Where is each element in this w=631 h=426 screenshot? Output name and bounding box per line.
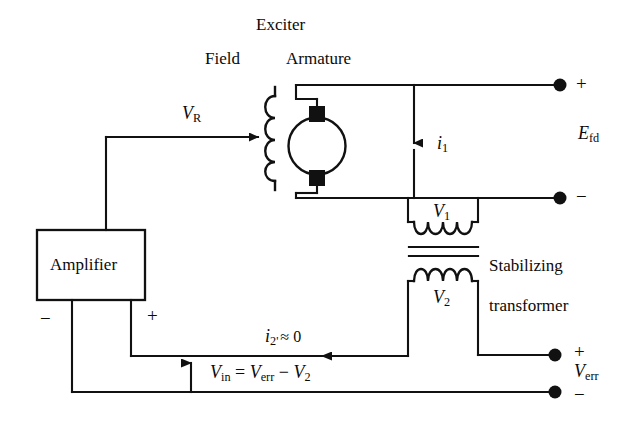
e-fd-subscript: fd	[589, 131, 599, 145]
v-r-label: VR	[182, 104, 201, 125]
v-in-equals: =	[231, 362, 250, 382]
v-2-subscript-eq: 2	[304, 370, 310, 384]
v-err-symbol-eq: V	[250, 362, 261, 382]
amplifier-input-wires	[72, 300, 555, 392]
v-2-symbol-eq: V	[293, 362, 304, 382]
i-2-subscript: 2'	[270, 334, 278, 348]
amplifier-plus-sign: +	[147, 306, 158, 325]
terminal-dot-efd-minus	[554, 192, 567, 205]
v-1-label: V1	[433, 202, 450, 223]
vr-arrow-path	[106, 137, 258, 230]
i-2-value: ≈ 0	[280, 328, 301, 345]
v-1-subscript: 1	[444, 209, 450, 223]
field-coil	[265, 87, 275, 190]
exciter-title: Exciter	[256, 16, 305, 33]
top-conductor	[296, 85, 560, 99]
stabilizing-transformer-label: Stabilizing transformer	[489, 236, 568, 336]
v-r-symbol: V	[182, 103, 193, 123]
v-in-symbol: V	[210, 362, 221, 382]
v-in-subscript: in	[221, 370, 231, 384]
bottom-conductor	[296, 193, 560, 198]
efd-minus-sign: −	[576, 187, 587, 206]
stabilizing-transformer-line1: Stabilizing	[489, 256, 568, 276]
circuit-diagram: Exciter Field Armature VR Efd i1 + − V1 …	[0, 0, 631, 426]
amplifier-minus-sign: −	[40, 309, 51, 328]
armature-machine	[289, 99, 346, 193]
v-1-symbol: V	[433, 201, 444, 221]
field-label: Field	[205, 50, 240, 67]
v-2-subscript: 2	[444, 295, 450, 309]
v-err-label: Verr	[574, 362, 599, 383]
terminal-dot-verr-plus	[549, 349, 562, 362]
i-1-label: i1	[437, 134, 448, 155]
verr-minus-sign: −	[574, 385, 585, 404]
efd-plus-sign: +	[576, 74, 587, 93]
verr-plus-sign: +	[574, 342, 585, 361]
e-fd-label: Efd	[578, 124, 599, 145]
v-err-subscript: err	[585, 369, 599, 383]
amplifier-label: Amplifier	[50, 256, 117, 273]
v-r-subscript: R	[193, 111, 201, 125]
v-err-subscript-eq: err	[261, 370, 275, 384]
armature-label: Armature	[286, 50, 351, 67]
v-2-label: V2	[433, 288, 450, 309]
v-in-equation: Vin = Verr − V2	[210, 363, 311, 384]
v-in-minus-op: −	[274, 362, 293, 382]
stabilizing-transformer-line2: transformer	[489, 296, 568, 316]
e-fd-symbol: E	[578, 123, 589, 143]
terminal-dot-verr-minus	[549, 386, 562, 399]
terminal-dot-efd-plus	[554, 79, 567, 92]
v-2-symbol: V	[433, 287, 444, 307]
i-2-label: i2'≈ 0	[265, 327, 301, 348]
i-1-subscript: 1	[442, 141, 448, 155]
v-err-symbol: V	[574, 361, 585, 381]
